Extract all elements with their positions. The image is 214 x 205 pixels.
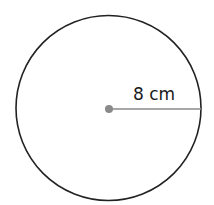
radius-label: 8 cm bbox=[133, 84, 175, 104]
circle-diagram: 8 cm bbox=[0, 0, 214, 205]
center-point bbox=[105, 105, 113, 113]
